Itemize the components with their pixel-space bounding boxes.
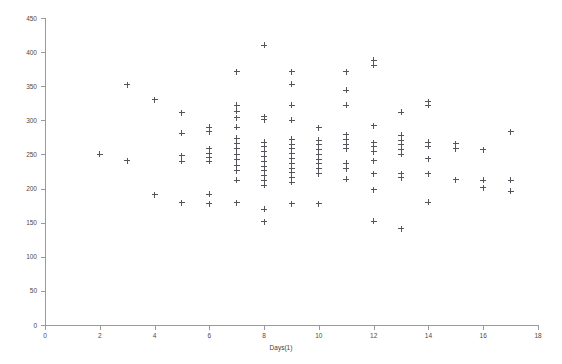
scatter-plot-figure: 050100150200250300350400450 024681012141…: [0, 0, 562, 364]
y-tick-label: 100: [11, 253, 37, 260]
x-tick-mark: [483, 326, 484, 330]
x-axis-line: [45, 325, 539, 326]
y-tick-label: 300: [11, 117, 37, 124]
y-tick-label: 350: [11, 83, 37, 90]
x-tick-label: 6: [199, 332, 219, 339]
x-tick-label: 12: [364, 332, 384, 339]
y-tick-label: 0: [11, 322, 37, 329]
y-tick-label: 450: [11, 15, 37, 22]
plot-data-area: [45, 18, 538, 325]
y-tick-label: 150: [11, 219, 37, 226]
x-tick-label: 4: [145, 332, 165, 339]
x-tick-mark: [319, 326, 320, 330]
x-tick-mark: [538, 326, 539, 330]
x-tick-label: 14: [418, 332, 438, 339]
x-tick-mark: [209, 326, 210, 330]
x-tick-label: 2: [90, 332, 110, 339]
x-tick-mark: [155, 326, 156, 330]
x-tick-label: 8: [254, 332, 274, 339]
y-tick-label: 400: [11, 49, 37, 56]
x-tick-mark: [374, 326, 375, 330]
x-axis-title: Days(1): [0, 344, 562, 351]
y-tick-label: 200: [11, 185, 37, 192]
y-tick-label: 50: [11, 287, 37, 294]
x-tick-label: 10: [309, 332, 329, 339]
x-tick-mark: [45, 326, 46, 330]
x-tick-mark: [428, 326, 429, 330]
x-tick-mark: [264, 326, 265, 330]
y-tick-label: 250: [11, 151, 37, 158]
x-tick-label: 16: [473, 332, 493, 339]
x-tick-mark: [100, 326, 101, 330]
x-tick-label: 0: [35, 332, 55, 339]
x-tick-label: 18: [528, 332, 548, 339]
